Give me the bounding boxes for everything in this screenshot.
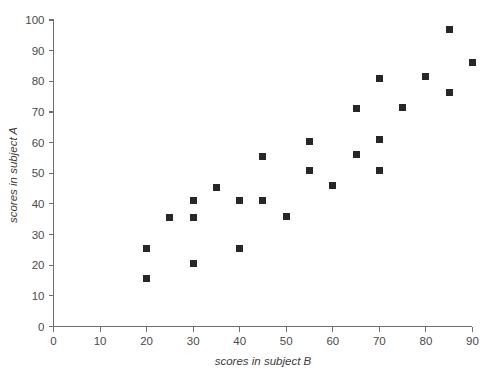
- y-axis-tick-label: 70: [32, 106, 45, 118]
- x-axis-tick-label: 80: [420, 335, 433, 347]
- y-axis-tick-label: 80: [32, 75, 45, 87]
- x-axis-tick-label: 90: [466, 335, 479, 347]
- data-point-marker: [399, 104, 406, 111]
- data-point-marker: [469, 59, 476, 66]
- data-point-marker: [259, 197, 266, 204]
- data-point-marker: [376, 136, 383, 143]
- data-point-marker: [143, 245, 150, 252]
- data-point-marker: [422, 73, 429, 80]
- y-axis-tick-label: 100: [25, 14, 44, 26]
- data-point-marker: [143, 275, 150, 282]
- data-point-marker: [376, 75, 383, 82]
- plot-canvas: 0102030405060708090100010203040506070809…: [0, 0, 499, 369]
- y-axis-tick-label: 0: [38, 321, 44, 333]
- data-point-marker: [353, 105, 360, 112]
- y-axis-tick-label: 10: [32, 290, 45, 302]
- x-axis-tick-label: 60: [326, 335, 339, 347]
- y-axis-tick-label: 20: [32, 259, 45, 271]
- data-point-marker: [166, 214, 173, 221]
- data-point-marker: [236, 197, 243, 204]
- data-point-marker: [259, 153, 266, 160]
- y-axis-tick-label: 60: [32, 137, 45, 149]
- data-point-marker: [190, 214, 197, 221]
- data-point-marker: [190, 260, 197, 267]
- x-axis-tick-label: 10: [94, 335, 107, 347]
- data-point-marker: [376, 167, 383, 174]
- data-point-marker: [446, 89, 453, 96]
- data-point-marker: [446, 26, 453, 33]
- data-point-marker: [213, 184, 220, 191]
- x-axis-tick-label: 50: [280, 335, 293, 347]
- data-point-marker: [236, 245, 243, 252]
- x-axis-tick-label: 70: [373, 335, 386, 347]
- y-axis-title: scores in subject A: [7, 127, 19, 223]
- y-axis-tick-label: 30: [32, 229, 45, 241]
- x-axis-tick-label: 30: [187, 335, 200, 347]
- x-axis-title: scores in subject B: [215, 355, 312, 367]
- data-point-marker: [283, 213, 290, 220]
- y-axis-tick-label: 40: [32, 198, 45, 210]
- x-axis-tick-label: 20: [140, 335, 153, 347]
- data-point-marker: [190, 197, 197, 204]
- data-point-marker: [306, 138, 313, 145]
- scatter-plot-figure: 0102030405060708090100010203040506070809…: [0, 0, 499, 369]
- y-axis-tick-label: 90: [32, 45, 45, 57]
- y-axis-tick-label: 50: [32, 167, 45, 179]
- data-point-marker: [353, 151, 360, 158]
- x-axis-tick-label: 0: [50, 335, 56, 347]
- x-axis-tick-label: 40: [233, 335, 246, 347]
- data-point-marker: [306, 167, 313, 174]
- data-point-marker: [329, 182, 336, 189]
